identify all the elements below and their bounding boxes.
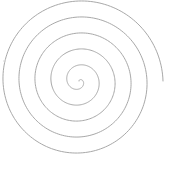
spiral-canvas	[0, 0, 174, 170]
spiral-diagram	[0, 0, 174, 170]
spiral-curve	[3, 1, 163, 153]
